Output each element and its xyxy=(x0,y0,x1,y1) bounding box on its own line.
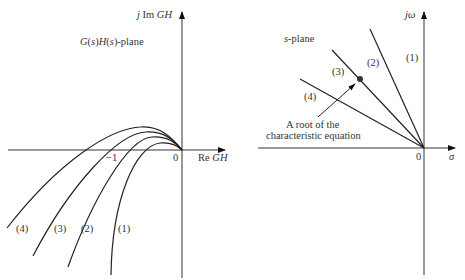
line-1 xyxy=(370,29,424,148)
root-annotation-line1: A root of the xyxy=(286,119,340,130)
curve-3 xyxy=(33,132,182,256)
curve-3-label: (3) xyxy=(54,223,67,235)
line-2-label: (2) xyxy=(367,57,380,69)
line-3-label: (3) xyxy=(332,66,345,78)
curve-2 xyxy=(68,137,182,267)
curve-1 xyxy=(111,143,182,275)
tick-zero-left: 0 xyxy=(173,152,178,163)
root-annotation-line2: characteristic equation xyxy=(266,130,361,141)
s-plane-plot: jω σ 0 s-plane (1) (2) (3) (4) A root of… xyxy=(258,9,455,275)
j-omega-axis-label: jω xyxy=(403,9,415,20)
im-gh-axis-label: j Im GH xyxy=(135,9,173,20)
sigma-axis-label: σ xyxy=(449,151,455,162)
s-plane-title: s-plane xyxy=(284,33,315,44)
diagram-canvas: j Im GH Re GH G(s)H(s)-plane −1 0 (4) (3… xyxy=(0,0,465,280)
tick-zero-right: 0 xyxy=(416,151,421,162)
gh-plane-title: G(s)H(s)-plane xyxy=(80,36,144,48)
curve-4 xyxy=(7,127,182,228)
curve-2-label: (2) xyxy=(81,223,94,235)
gh-plane-plot: j Im GH Re GH G(s)H(s)-plane −1 0 (4) (3… xyxy=(7,9,229,278)
root-annotation-arrow xyxy=(318,84,355,117)
line-1-label: (1) xyxy=(406,52,419,64)
re-gh-axis-label: Re GH xyxy=(198,152,229,163)
curve-1-label: (1) xyxy=(118,223,131,235)
line-4-label: (4) xyxy=(304,91,317,103)
root-point-marker xyxy=(357,76,363,82)
curve-4-label: (4) xyxy=(16,223,29,235)
